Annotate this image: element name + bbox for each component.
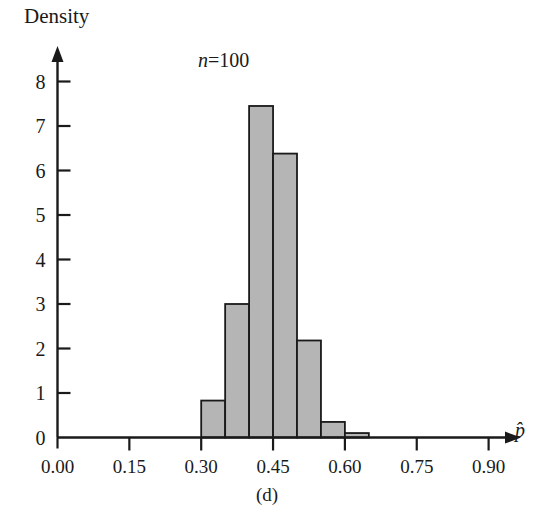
sample-size-symbol: n: [198, 49, 208, 71]
chart-canvas: [0, 0, 550, 515]
y-axis-ticks: [58, 82, 71, 394]
y-axis-tick-label: 1: [22, 383, 46, 403]
histogram-bars: [201, 106, 369, 438]
histogram-bar: [201, 401, 225, 438]
y-axis-tick-label: 3: [22, 294, 46, 314]
histogram-bar: [249, 106, 273, 438]
y-axis-tick-label: 8: [22, 72, 46, 92]
histogram-bar: [297, 340, 321, 437]
y-axis-tick-label: 4: [22, 250, 46, 270]
sample-size-equals: =: [208, 49, 219, 71]
y-axis-arrowhead: [52, 46, 64, 62]
y-axis-tick-label: 6: [22, 161, 46, 181]
x-axis-tick-label: 0.45: [243, 457, 303, 476]
x-axis-tick-label: 0.60: [315, 457, 375, 476]
x-axis-tick-label: 0.30: [171, 457, 231, 476]
x-axis-tick-label: 0.00: [28, 457, 88, 476]
x-axis-tick-label: 0.15: [99, 457, 159, 476]
x-axis-ticks: [58, 438, 489, 451]
histogram-bar: [225, 304, 249, 438]
y-axis-tick-label: 2: [22, 339, 46, 359]
x-axis-title: p̂: [515, 420, 525, 440]
histogram-figure: 012345678 0.000.150.300.450.600.750.90 D…: [0, 0, 550, 515]
histogram-bar: [321, 422, 345, 438]
figure-caption: (d): [256, 485, 278, 504]
x-axis-tick-label: 0.90: [459, 457, 519, 476]
y-axis-tick-label: 5: [22, 205, 46, 225]
x-axis-tick-label: 0.75: [387, 457, 447, 476]
sample-size-value: 100: [219, 49, 249, 71]
y-axis-tick-label: 7: [22, 116, 46, 136]
histogram-bar: [273, 154, 297, 438]
y-axis-tick-label: 0: [22, 428, 46, 448]
sample-size-annotation: n=100: [198, 50, 249, 70]
y-axis-title: Density: [24, 6, 89, 27]
